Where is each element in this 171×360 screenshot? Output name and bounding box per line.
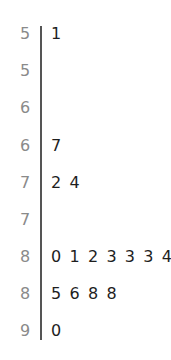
- stem: 9: [18, 319, 32, 343]
- stem-and-leaf-plot: 5 1 5 6 6 7 7 2 4 7 8 0 1 2 3 3 3 4 8 5 …: [0, 0, 171, 360]
- stem: 6: [18, 134, 32, 158]
- stem: 6: [18, 96, 32, 120]
- stem: 5: [18, 22, 32, 46]
- plot-row: 7: [0, 208, 171, 232]
- plot-row: 8 0 1 2 3 3 3 4: [0, 245, 171, 269]
- stem: 7: [18, 171, 32, 195]
- plot-row: 8 5 6 8 8: [0, 282, 171, 306]
- stem: 7: [18, 208, 32, 232]
- leaves: 5 6 8 8: [51, 282, 118, 306]
- stem: 5: [18, 59, 32, 83]
- stem: 8: [18, 282, 32, 306]
- stem: 8: [18, 245, 32, 269]
- leaves: 0 1 2 3 3 3 4: [51, 245, 171, 269]
- leaves: 0: [51, 319, 63, 343]
- leaves: 7: [51, 134, 63, 158]
- leaves: 2 4: [51, 171, 81, 195]
- plot-row: 6 7: [0, 134, 171, 158]
- leaves: 1: [51, 22, 63, 46]
- plot-row: 5 1: [0, 22, 171, 46]
- plot-row: 5: [0, 59, 171, 83]
- plot-row: 7 2 4: [0, 171, 171, 195]
- plot-row: 9 0: [0, 319, 171, 343]
- plot-row: 6: [0, 96, 171, 120]
